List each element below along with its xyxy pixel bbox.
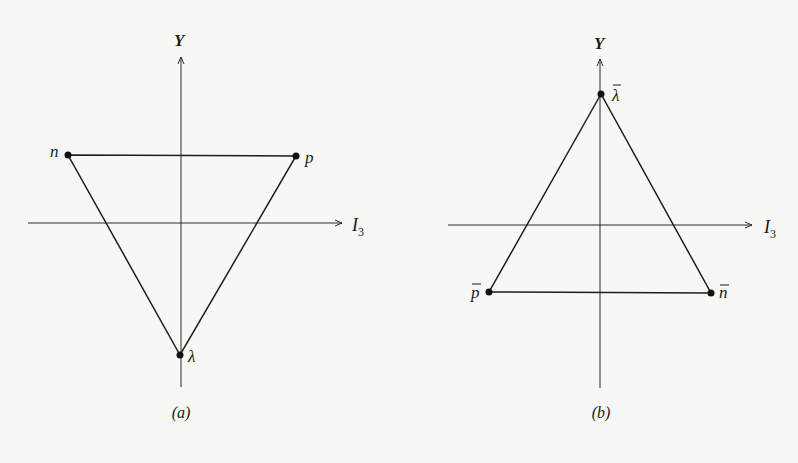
octet-triangle-a	[68, 155, 296, 355]
point-n	[65, 152, 72, 159]
y-axis-label: Y	[594, 34, 606, 53]
label-lambda: λ	[187, 347, 195, 366]
label-p-bar: p	[470, 283, 480, 302]
y-axis-label: Y	[174, 31, 186, 50]
i3-axis-label: I3	[351, 215, 364, 239]
label-lambda-bar: λ	[611, 86, 619, 105]
caption-b: (b)	[592, 404, 611, 422]
caption-a: (a)	[172, 404, 191, 422]
point-lambda-bar	[598, 91, 605, 98]
panel-a: Y I3 n p λ (a)	[28, 31, 364, 422]
panel-b: Y I3 λ p n (b)	[448, 34, 776, 422]
label-n-bar: n	[719, 283, 728, 302]
weight-diagram-figure: Y I3 n p λ (a) Y I3 λ p n (b)	[0, 0, 798, 463]
label-n: n	[50, 142, 59, 161]
point-p	[293, 153, 300, 160]
i3-axis-label: I3	[763, 217, 776, 241]
point-lambda	[177, 352, 184, 359]
point-p-bar	[486, 289, 493, 296]
label-p: p	[304, 148, 314, 167]
point-n-bar	[708, 290, 715, 297]
